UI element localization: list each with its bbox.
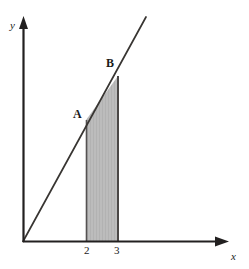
point-label-a: A	[73, 108, 82, 120]
point-label-b: B	[106, 57, 114, 69]
x-tick-label-2: 2	[84, 245, 90, 256]
figure-container: y x A B 2 3	[0, 0, 249, 269]
y-axis-label: y	[10, 20, 15, 31]
x-tick-label-3: 3	[114, 245, 120, 256]
x-axis-arrowhead	[215, 237, 229, 247]
ray-through-origin	[23, 17, 146, 242]
coordinate-plane-graphic	[0, 0, 249, 269]
shaded-region	[86, 76, 118, 241]
y-axis-arrowhead	[19, 16, 28, 29]
x-axis-label: x	[231, 251, 236, 262]
